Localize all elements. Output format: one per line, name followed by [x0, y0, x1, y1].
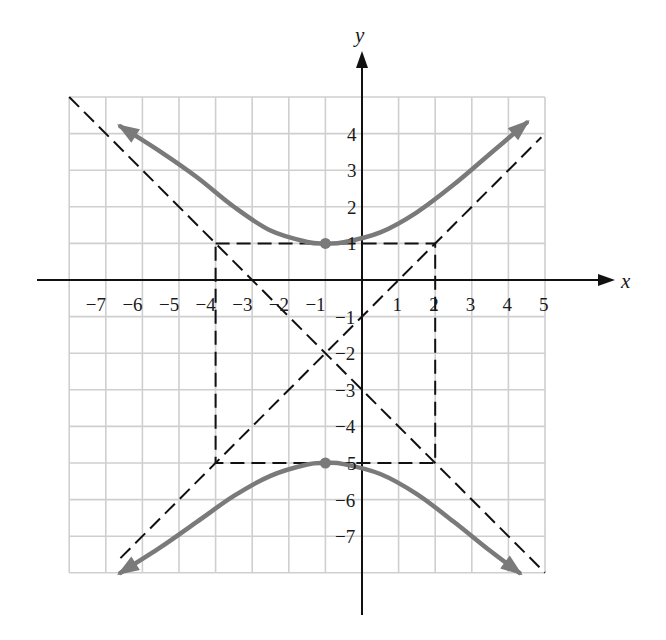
hyperbola-branch [120, 463, 519, 573]
x-tick-label: 5 [539, 294, 549, 315]
x-tick-label: −5 [159, 294, 179, 315]
axes: x y [37, 23, 631, 615]
y-tick-label: −6 [335, 490, 355, 511]
x-tick-label: −4 [196, 294, 217, 315]
hyperbola-branch [120, 123, 526, 244]
x-axis-label: x [620, 269, 631, 293]
vertex-bottom-marker [320, 458, 331, 469]
y-tick-label: −1 [335, 307, 355, 328]
y-tick-label: 1 [347, 233, 357, 254]
x-tick-label: −6 [122, 294, 142, 315]
y-tick-label: 5 [347, 453, 357, 474]
hyperbola-graph: x y −7−6−5−4−3−2−1123454321−1−2−3−45−6−7 [0, 0, 666, 640]
x-tick-label: −1 [305, 294, 325, 315]
x-tick-label: −3 [232, 294, 252, 315]
y-axis-arrow-icon [356, 51, 368, 68]
y-tick-label: 2 [347, 197, 357, 218]
y-tick-label: −3 [335, 380, 355, 401]
y-tick-label: 3 [347, 160, 357, 181]
tick-labels: −7−6−5−4−3−2−1123454321−1−2−3−45−6−7 [86, 124, 549, 548]
vertex-top-marker [320, 238, 331, 249]
x-tick-label: −7 [86, 294, 106, 315]
x-tick-label: 2 [429, 294, 439, 315]
y-tick-label: −7 [335, 526, 355, 547]
x-tick-label: 3 [466, 294, 476, 315]
y-tick-label: 4 [347, 124, 357, 145]
x-axis-arrow-icon [598, 274, 615, 286]
y-tick-label: −2 [335, 343, 355, 364]
y-axis-label: y [353, 23, 365, 47]
y-tick-label: −4 [335, 416, 356, 437]
x-tick-label: 4 [502, 294, 512, 315]
x-tick-label: 1 [393, 294, 403, 315]
x-tick-label: −2 [269, 294, 289, 315]
dashed-line [120, 137, 541, 558]
